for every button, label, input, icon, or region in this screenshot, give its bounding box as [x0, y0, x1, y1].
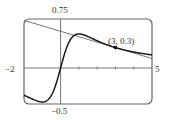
- y-min-label: −0.5: [51, 106, 67, 116]
- plot-frame: [24, 19, 152, 104]
- x-min-label: −2: [5, 64, 15, 74]
- y-max-label: 0.75: [52, 5, 68, 15]
- point-label: (3, 0.3): [108, 36, 134, 46]
- x-max-label: 5: [155, 64, 160, 74]
- point-marker: [114, 46, 118, 50]
- chart-plot: [0, 0, 169, 120]
